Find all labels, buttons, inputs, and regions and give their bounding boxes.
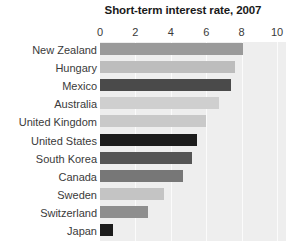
category-label-japan: Japan (0, 225, 97, 238)
chart-row: Australia (0, 96, 291, 114)
x-tick-label-6: 6 (203, 26, 209, 38)
chart-rows: New ZealandHungaryMexicoAustraliaUnited … (0, 42, 291, 241)
chart-row: New Zealand (0, 42, 291, 60)
chart-row: Canada (0, 169, 291, 187)
chart-row: South Korea (0, 151, 291, 169)
bar-mexico (100, 79, 231, 91)
bar-united-kingdom (100, 115, 206, 127)
category-label-new-zealand: New Zealand (0, 44, 97, 57)
x-tick-label-10: 10 (271, 26, 283, 38)
category-label-sweden: Sweden (0, 189, 97, 202)
chart-row: Hungary (0, 60, 291, 78)
category-label-united-kingdom: United Kingdom (0, 116, 97, 129)
bar-switzerland (100, 206, 148, 218)
bar-australia (100, 97, 219, 109)
x-tick-label-4: 4 (168, 26, 174, 38)
bar-japan (100, 224, 113, 236)
category-label-hungary: Hungary (0, 62, 97, 75)
chart-row: United Kingdom (0, 114, 291, 132)
bar-hungary (100, 61, 235, 73)
bar-chart-figure: Short-term interest rate, 2007 0246810 N… (0, 0, 291, 250)
chart-row: United States (0, 133, 291, 151)
bar-united-states (100, 134, 197, 146)
category-label-united-states: United States (0, 135, 97, 148)
x-tick-label-2: 2 (132, 26, 138, 38)
chart-row: Switzerland (0, 205, 291, 223)
category-label-canada: Canada (0, 171, 97, 184)
bar-new-zealand (100, 43, 243, 55)
category-label-mexico: Mexico (0, 80, 97, 93)
category-label-australia: Australia (0, 98, 97, 111)
chart-row: Mexico (0, 78, 291, 96)
chart-row: Sweden (0, 187, 291, 205)
bar-canada (100, 170, 183, 182)
category-label-south-korea: South Korea (0, 153, 97, 166)
chart-title: Short-term interest rate, 2007 (80, 4, 286, 16)
x-tick-label-0: 0 (97, 26, 103, 38)
bar-sweden (100, 188, 164, 200)
x-tick-label-8: 8 (239, 26, 245, 38)
chart-row: Japan (0, 223, 291, 241)
x-axis-tick-labels: 0246810 (0, 26, 291, 40)
category-label-switzerland: Switzerland (0, 207, 97, 220)
bar-south-korea (100, 152, 192, 164)
